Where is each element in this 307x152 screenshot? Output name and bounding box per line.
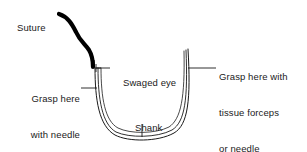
label-suture-text: Suture <box>17 22 46 33</box>
label-suture: Suture <box>6 10 46 46</box>
label-shank-text: Shank <box>135 122 162 133</box>
label-grasp-needle-holder: Grasp here with needle holder <box>8 69 80 152</box>
label-grasp-needle-holder-line2: with needle <box>8 129 80 141</box>
label-swaged-eye-text: Swaged eye <box>123 77 176 88</box>
label-swaged-eye: Swaged eye <box>112 65 176 101</box>
label-shank: Shank <box>124 110 160 146</box>
suture-thread <box>59 14 93 67</box>
label-grasp-needle-holder-line1: Grasp here <box>8 93 80 105</box>
suture-needle-diagram: Suture Grasp here with needle holder Swa… <box>0 0 307 152</box>
label-grasp-tissue-forceps: Grasp here with tissue forceps or needle <box>219 47 305 152</box>
label-grasp-tissue-forceps-line2: tissue forceps <box>219 107 305 119</box>
label-grasp-tissue-forceps-line1: Grasp here with <box>219 71 305 83</box>
label-grasp-tissue-forceps-line3: or needle <box>219 143 305 152</box>
